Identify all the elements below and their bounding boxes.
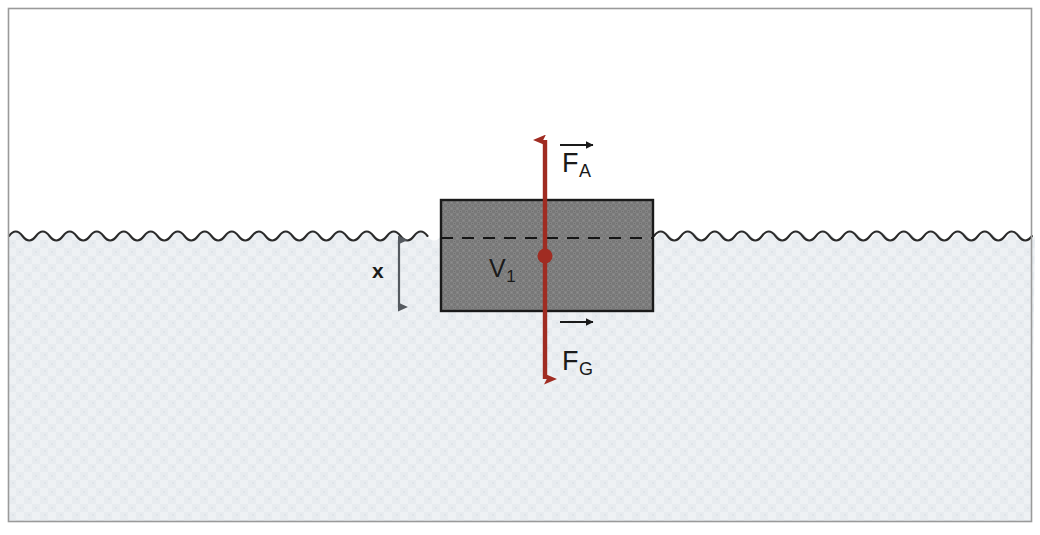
gravity-force-label: FG [562, 348, 593, 378]
buoyant-force-symbol: F [562, 148, 579, 178]
submerged-volume-subscript: 1 [506, 267, 515, 286]
physics-diagram-figure: FA FG V1 x [0, 0, 1040, 535]
diagram-canvas [0, 0, 1040, 535]
gravity-force-symbol: F [562, 346, 579, 376]
gravity-force-subscript: G [579, 359, 593, 379]
submersion-depth-label: x [372, 260, 384, 281]
center-of-mass-dot [538, 249, 553, 264]
submerged-volume-label: V1 [489, 256, 516, 285]
submerged-volume-symbol: V [489, 254, 506, 282]
buoyant-force-label: FA [562, 150, 591, 180]
buoyant-force-subscript: A [579, 161, 591, 181]
